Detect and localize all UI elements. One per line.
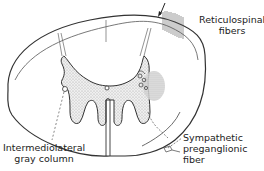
intermediolateral-label-line2: gray column [3, 153, 85, 164]
sympathetic-label-line3: fiber [183, 154, 247, 165]
left-lateral-horn [63, 87, 68, 92]
sympathetic-preganglionic-fiber-label: Sympathetic preganglionic fiber [183, 132, 247, 165]
reticulospinal-label-line1: Reticulospinal [199, 14, 264, 25]
sympathetic-label-line1: Sympathetic [183, 132, 247, 143]
sympathetic-fiber-path [148, 112, 168, 138]
dorsal-root-left [58, 33, 66, 56]
dorsal-root-right [140, 28, 151, 56]
central-canal [105, 86, 109, 90]
reticulospinal-label-line2: fibers [199, 25, 264, 36]
intermediolateral-gray-column-label: Intermediolateral gray column [3, 142, 85, 164]
lateral-horn-region [143, 71, 165, 101]
fiber-tail [172, 150, 180, 152]
ventral-median-fissure [106, 99, 110, 157]
intermediolateral-leader [52, 92, 64, 140]
reticulospinal-fibers-label: Reticulospinal fibers [199, 14, 264, 36]
intermediolateral-label-line1: Intermediolateral [3, 142, 85, 153]
down-left-arrow-icon [158, 3, 165, 17]
pia-inner-line [15, 21, 198, 80]
sympathetic-label-line2: preganglionic [183, 143, 247, 154]
spinal-cord-diagram: Reticulospinal fibers Intermediolateral … [0, 0, 264, 171]
